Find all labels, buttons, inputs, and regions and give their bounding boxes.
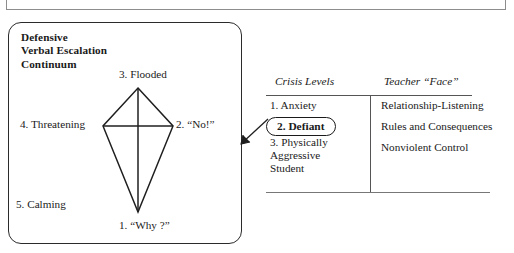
kite-label-why: 1. “Why ?”: [119, 219, 170, 232]
table-row: Relationship-Listening: [381, 99, 484, 112]
table-header-row: Crisis Levels Teacher “Face”: [266, 74, 494, 95]
status-badge[interactable]: 2. Defiant: [266, 117, 336, 136]
kite-label-no: 2. “No!”: [176, 118, 215, 131]
column-header-crisis-levels: Crisis Levels: [275, 75, 334, 87]
table-bottom-rule: [266, 192, 490, 193]
column-header-teacher-face: Teacher “Face”: [384, 75, 459, 87]
table-top-rule: [266, 95, 472, 96]
crisis-levels-table: Crisis Levels Teacher “Face” 1. Anxiety …: [266, 74, 494, 198]
table-row: 3. Physically Aggressive Student: [270, 136, 328, 176]
kite-label-threatening: 4. Threatening: [20, 118, 85, 131]
table-row: 1. Anxiety: [270, 99, 317, 112]
table-column-divider: [370, 95, 371, 192]
table-row: Nonviolent Control: [381, 141, 468, 154]
kite-label-flooded: 3. Flooded: [119, 68, 167, 81]
table-row: Rules and Consequences: [381, 120, 492, 133]
kite-label-calming: 5. Calming: [16, 198, 66, 211]
